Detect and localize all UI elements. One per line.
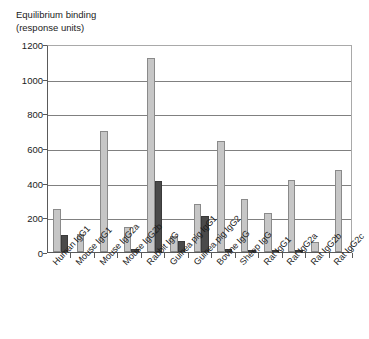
bar-group — [283, 46, 306, 252]
x-axis-tick-mark — [235, 253, 236, 258]
x-axis-tick-mark — [258, 253, 259, 258]
bar-group — [142, 46, 165, 252]
x-axis-tick-mark — [211, 253, 212, 258]
y-axis-tick-label: 600 — [3, 144, 43, 155]
x-axis-tick-mark — [329, 253, 330, 258]
x-axis-tick-mark — [352, 253, 353, 258]
chart-axis-title-line-2: (response units) — [16, 21, 96, 34]
x-axis-tick-mark — [188, 253, 189, 258]
bar-group — [48, 46, 71, 252]
bar-group — [118, 46, 141, 252]
y-axis-tick-label: 0 — [3, 248, 43, 259]
plot-area — [47, 45, 352, 253]
chart-axis-title-line-1: Equilibrium binding — [16, 8, 96, 21]
bar-light — [147, 58, 155, 252]
x-axis-tick-mark — [164, 253, 165, 258]
x-axis-tick-mark — [305, 253, 306, 258]
x-axis-tick-mark — [282, 253, 283, 258]
y-axis-tick-mark — [43, 253, 47, 254]
bar-group — [306, 46, 329, 252]
bar-group — [71, 46, 94, 252]
y-axis-tick-label: 1200 — [3, 40, 43, 51]
y-axis-tick-label: 800 — [3, 109, 43, 120]
bar-chart-figure: Equilibrium binding (response units) 020… — [0, 0, 369, 339]
x-axis-tick-mark — [141, 253, 142, 258]
bar-group — [95, 46, 118, 252]
x-axis-tick-mark — [70, 253, 71, 258]
bar-light — [53, 209, 61, 252]
bar-group — [165, 46, 188, 252]
x-axis-tick-mark — [117, 253, 118, 258]
bar-group — [259, 46, 282, 252]
chart-axis-title: Equilibrium binding (response units) — [16, 8, 96, 34]
x-axis-tick-mark — [94, 253, 95, 258]
y-axis-tick-label: 400 — [3, 178, 43, 189]
bar-group — [330, 46, 353, 252]
y-axis-tick-label: 1000 — [3, 74, 43, 85]
y-axis-tick-label: 200 — [3, 213, 43, 224]
